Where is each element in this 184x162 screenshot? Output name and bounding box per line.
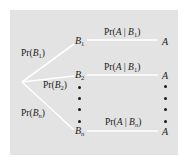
leaf-a-n: A <box>162 127 168 137</box>
probability-tree-diagram: Pr(B1) Pr(B2) Pr(Bn) B1 B2 Bn Pr(A | B1)… <box>0 0 184 162</box>
tree-branches <box>0 0 184 162</box>
second-branch-label-n: Pr(A | Bn) <box>105 118 141 129</box>
second-branch-label-2: Pr(A | B1) <box>104 63 140 74</box>
ellipsis-dot-right-2 <box>164 97 167 100</box>
node-b2: B2 <box>75 70 84 82</box>
node-bn: Bn <box>75 126 84 138</box>
ellipsis-dot-middle-3 <box>78 108 81 111</box>
ellipsis-dot-middle-1 <box>78 86 81 89</box>
ellipsis-dot-right-3 <box>164 108 167 111</box>
ellipsis-dot-middle-2 <box>78 97 81 100</box>
root-branch-label-bn: Pr(Bn) <box>21 109 45 120</box>
leaf-a-2: A <box>162 71 168 81</box>
leaf-a-1: A <box>162 37 168 47</box>
ellipsis-dot-right-1 <box>164 85 167 88</box>
root-branch-label-b2: Pr(B2) <box>43 81 67 92</box>
root-branch-label-b1: Pr(B1) <box>21 49 45 60</box>
node-b1: B1 <box>75 36 84 48</box>
ellipsis-dot-middle-4 <box>78 120 81 123</box>
second-branch-label-1: Pr(A | B1) <box>104 28 140 39</box>
ellipsis-dot-right-4 <box>164 120 167 123</box>
